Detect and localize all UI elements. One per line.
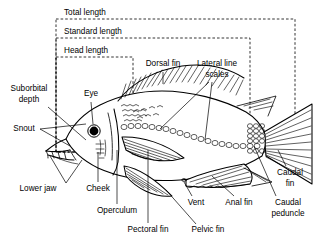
label-caudal-peduncle-line2: peduncle (271, 209, 305, 218)
label-eye: Eye (84, 89, 99, 98)
eye-pupil (90, 127, 99, 136)
eye-group (88, 125, 100, 137)
leader-snout (40, 129, 70, 146)
label-standard-length: Standard length (64, 27, 122, 36)
fish-drawing (46, 65, 312, 196)
caudal-peduncle-scales (247, 124, 264, 154)
label-operculum: Operculum (97, 206, 137, 215)
label-snout: Snout (13, 124, 35, 133)
label-lower-jaw: Lower jaw (20, 184, 57, 193)
fish-anatomy-diagram: Total length Standard length Head length… (0, 0, 316, 245)
label-total-length: Total length (64, 8, 106, 17)
label-caudal-fin-line1: Caudal (277, 168, 303, 177)
label-cheek: Cheek (86, 184, 111, 193)
diagram-canvas: Total length Standard length Head length… (0, 0, 316, 245)
label-dorsal-fin: Dorsal fin (146, 59, 181, 68)
label-pelvic-fin: Pelvic fin (192, 225, 225, 234)
label-lateral-line-scales-line2: scales (205, 70, 228, 79)
label-suborbital-depth-line1: Suborbital (11, 84, 48, 93)
label-suborbital-depth-line2: depth (19, 95, 40, 104)
label-vent: Vent (188, 198, 205, 207)
label-caudal-fin-line2: fin (286, 179, 295, 188)
label-anal-fin: Anal fin (225, 198, 253, 207)
label-head-length: Head length (64, 46, 109, 55)
label-lateral-line-scales-line1: Lateral line (197, 59, 238, 68)
label-caudal-peduncle-line1: Caudal (275, 198, 301, 207)
label-pectoral-fin: Pectoral fin (128, 225, 169, 234)
